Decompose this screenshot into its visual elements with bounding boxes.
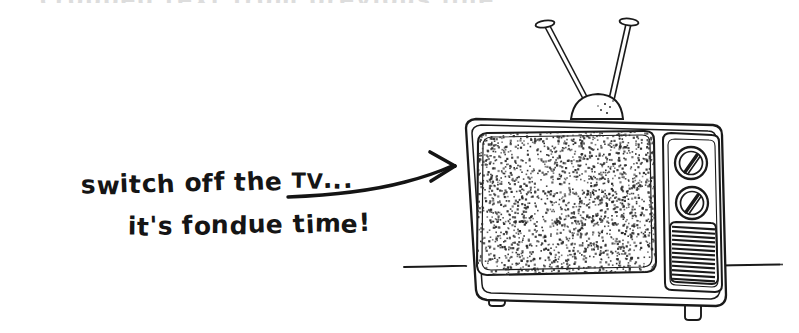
tv-control-panel <box>663 133 722 292</box>
antenna-tip-right <box>619 18 639 27</box>
tv-screen <box>474 129 662 281</box>
scene-illustration <box>0 0 799 333</box>
curved-pointer-arrow <box>288 152 455 197</box>
tv-knob-lower[interactable] <box>676 187 708 219</box>
tv-speaker-grille <box>670 222 718 284</box>
antenna-tip-left <box>535 19 555 28</box>
tv-knob-upper[interactable] <box>675 147 707 179</box>
illustration-page: cropped text from previous line <box>0 0 799 333</box>
antenna-assembly <box>535 18 639 119</box>
